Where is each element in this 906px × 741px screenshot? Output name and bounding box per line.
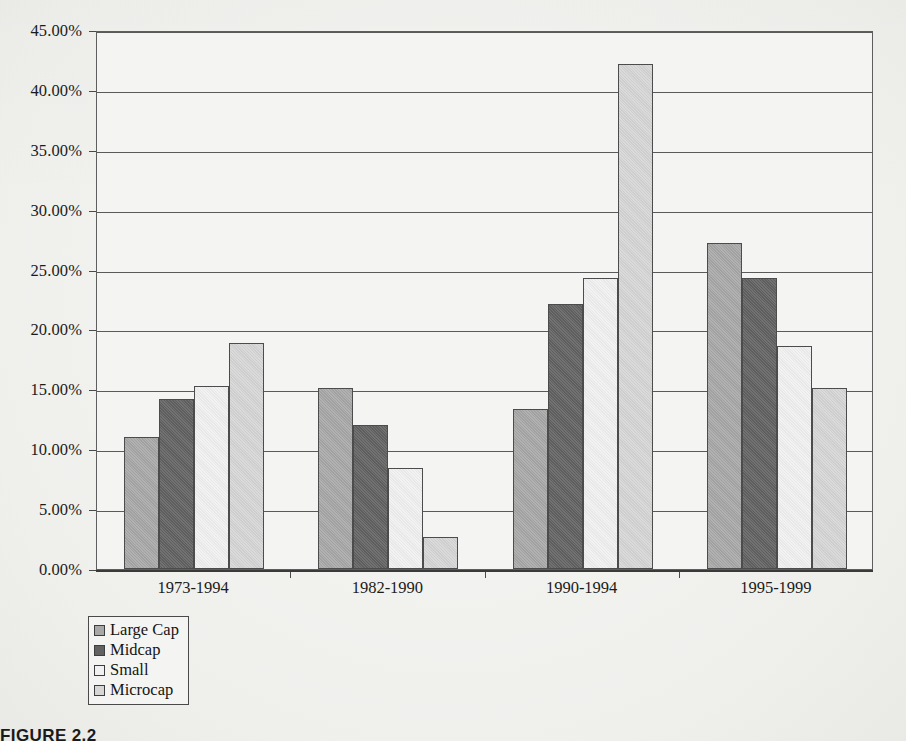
x-axis-line [96, 570, 873, 572]
y-axis-tick-label: 15.00% [31, 380, 82, 400]
bar-microcap-1982-1990 [423, 537, 458, 569]
gridline [97, 152, 872, 153]
x-axis-tick-mark [679, 572, 680, 578]
y-axis-tick-mark [89, 31, 96, 32]
bar-midcap-1973-1994 [159, 399, 194, 569]
y-axis-tick-label: 10.00% [31, 440, 82, 460]
gridline [97, 212, 872, 213]
bar-microcap-1995-1999 [812, 388, 847, 569]
legend-item-label: Microcap [110, 682, 173, 699]
x-axis-category-label: 1973-1994 [157, 578, 229, 598]
y-axis-tick-mark [89, 151, 96, 152]
x-axis-tick-mark [290, 572, 291, 578]
bar-large-cap-1973-1994 [124, 437, 159, 569]
figure-caption: FIGURE 2.2 [0, 726, 97, 741]
legend-item-midcap: Midcap [94, 640, 179, 660]
y-axis-tick-label: 5.00% [39, 500, 82, 520]
y-axis: 0.00%5.00%10.00%15.00%20.00%25.00%30.00%… [0, 0, 96, 600]
y-axis-tick-mark [89, 510, 96, 511]
x-axis-category-label: 1995-1999 [740, 578, 812, 598]
bar-large-cap-1995-1999 [707, 243, 742, 569]
bar-midcap-1995-1999 [742, 278, 777, 569]
y-axis-tick-mark [89, 211, 96, 212]
x-axis-tick-mark [485, 572, 486, 578]
gridline [97, 92, 872, 93]
legend-item-label: Small [110, 662, 149, 679]
bar-microcap-1973-1994 [229, 343, 264, 569]
y-axis-tick-label: 30.00% [31, 201, 82, 221]
x-axis-category-label: 1982-1990 [352, 578, 424, 598]
legend-swatch-icon [94, 645, 105, 656]
y-axis-tick-label: 35.00% [31, 141, 82, 161]
y-axis-tick-mark [89, 330, 96, 331]
legend-item-microcap: Microcap [94, 680, 179, 700]
y-axis-tick-mark [89, 570, 96, 571]
gridline [97, 32, 872, 33]
y-axis-tick-mark [89, 450, 96, 451]
y-axis-tick-mark [89, 390, 96, 391]
bar-small-1995-1999 [777, 346, 812, 569]
x-axis-category-label: 1990-1994 [546, 578, 618, 598]
y-axis-tick-label: 25.00% [31, 261, 82, 281]
chart-legend: Large CapMidcapSmallMicrocap [88, 616, 189, 705]
bar-large-cap-1990-1994 [513, 409, 548, 570]
legend-item-label: Large Cap [110, 622, 179, 639]
y-axis-tick-label: 45.00% [31, 21, 82, 41]
bar-small-1982-1990 [388, 468, 423, 569]
bar-midcap-1982-1990 [353, 425, 388, 569]
bar-small-1973-1994 [194, 386, 229, 569]
y-axis-tick-mark [89, 271, 96, 272]
y-axis-tick-label: 20.00% [31, 320, 82, 340]
plot-area [96, 31, 873, 570]
bar-midcap-1990-1994 [548, 304, 583, 569]
bar-small-1990-1994 [583, 278, 618, 569]
legend-item-label: Midcap [110, 642, 160, 659]
legend-item-large-cap: Large Cap [94, 620, 179, 640]
y-axis-tick-mark [89, 91, 96, 92]
gridline [97, 272, 872, 273]
bar-chart-figure: 0.00%5.00%10.00%15.00%20.00%25.00%30.00%… [0, 0, 906, 741]
legend-swatch-icon [94, 685, 105, 696]
legend-swatch-icon [94, 665, 105, 676]
bar-microcap-1990-1994 [618, 64, 653, 569]
legend-item-small: Small [94, 660, 179, 680]
legend-swatch-icon [94, 625, 105, 636]
y-axis-tick-label: 40.00% [31, 81, 82, 101]
y-axis-tick-label: 0.00% [39, 560, 82, 580]
bar-large-cap-1982-1990 [318, 388, 353, 569]
